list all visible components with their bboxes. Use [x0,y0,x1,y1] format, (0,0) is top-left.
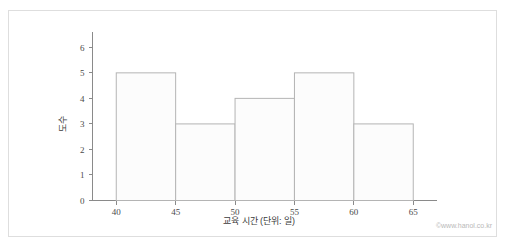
x-tick-label: 45 [171,207,181,217]
histogram-bar [354,124,413,201]
y-tick-label: 0 [80,196,85,206]
y-tick-label: 1 [80,170,85,180]
histogram-bar [294,73,353,201]
bar-group [116,73,413,201]
y-tick-label: 5 [80,68,85,78]
x-axis-title: 교육 시간 (단위: 일) [223,216,295,226]
histogram-bar [235,98,294,200]
chart-canvas: 0123456 404550556065 도수 교육 시간 (단위: 일) ©w… [0,0,509,251]
histogram-bar [176,124,235,201]
y-tick-label: 4 [80,94,85,104]
x-tick-label: 65 [409,207,419,217]
histogram-figure: 0123456 404550556065 도수 교육 시간 (단위: 일) ©w… [0,0,509,251]
y-tick-label: 6 [80,43,85,53]
y-tick-label-group: 0123456 [80,43,85,206]
y-axis-title: 도수 [58,116,68,132]
histogram-bar [116,73,175,201]
x-tick-label: 40 [112,207,122,217]
y-tick-label: 3 [80,119,85,129]
x-tick-label: 55 [290,207,300,217]
x-tick-label-group: 404550556065 [112,207,418,217]
watermark-text: ©www.hanol.co.kr [436,222,493,229]
x-tick-group [116,201,413,205]
y-tick-group [89,47,93,200]
x-tick-label: 50 [231,207,241,217]
y-tick-label: 2 [80,145,85,155]
x-tick-label: 60 [349,207,359,217]
